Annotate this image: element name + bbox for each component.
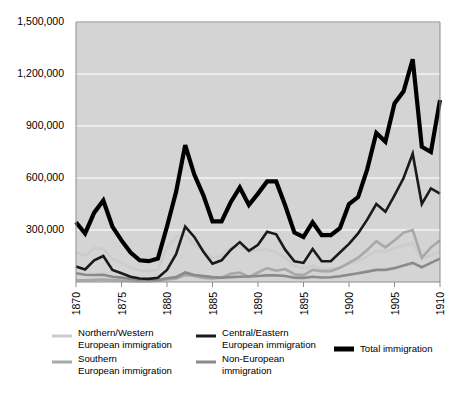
x-tick-label: 1880: [161, 292, 173, 316]
y-tick-label: 1,200,000: [17, 67, 64, 79]
legend-label: Total immigration: [360, 343, 433, 354]
legend-label: European immigration: [222, 339, 316, 350]
x-tick-label: 1895: [298, 292, 310, 316]
legend-label: Southern: [78, 353, 117, 364]
legend-label: European immigration: [78, 365, 172, 376]
x-tick-label: 1870: [70, 292, 82, 316]
chart-canvas: 300,000600,000900,0001,200,0001,500,000 …: [0, 0, 470, 397]
y-tick-label: 1,500,000: [17, 15, 64, 27]
x-tick-label: 1910: [434, 292, 446, 316]
y-tick-label: 600,000: [26, 171, 64, 183]
x-tick-label: 1890: [252, 292, 264, 316]
y-tick-label: 900,000: [26, 119, 64, 131]
legend-label: immigration: [222, 365, 272, 376]
legend-label: Central/Eastern: [222, 327, 289, 338]
legend-label: European immigration: [78, 339, 172, 350]
legend-label: Non-European: [222, 353, 284, 364]
x-tick-label: 1900: [343, 292, 355, 316]
x-tick-label: 1875: [116, 292, 128, 316]
legend-label: Northern/Western: [78, 327, 154, 338]
immigration-line-chart: 300,000600,000900,0001,200,0001,500,000 …: [0, 0, 470, 397]
y-tick-label: 300,000: [26, 223, 64, 235]
x-tick-label: 1905: [389, 292, 401, 316]
x-tick-label: 1885: [207, 292, 219, 316]
